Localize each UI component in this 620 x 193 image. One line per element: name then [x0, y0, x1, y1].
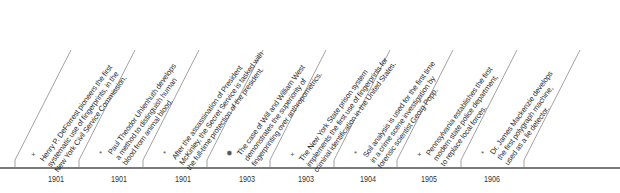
timeline: + Henry P. DeForrest pioneers the first …: [0, 0, 620, 193]
asterisk-icon: *: [354, 150, 357, 158]
plus-icon: +: [417, 151, 422, 159]
event-year: 1903: [290, 174, 322, 184]
flower-icon: ✹: [226, 150, 233, 158]
event-year: 1901: [167, 174, 199, 184]
event-year: 1904: [352, 174, 384, 184]
event-year: 1901: [103, 174, 135, 184]
event-year: 1901: [40, 174, 72, 184]
event-year: 1905: [413, 174, 445, 184]
plus-icon: +: [31, 151, 36, 159]
plus-icon: +: [290, 151, 295, 159]
asterisk-icon: *: [163, 150, 166, 158]
event-year: 1906: [476, 174, 508, 184]
asterisk-icon: *: [99, 150, 102, 158]
event-year: 1903: [231, 174, 263, 184]
asterisk-icon: *: [481, 150, 484, 158]
